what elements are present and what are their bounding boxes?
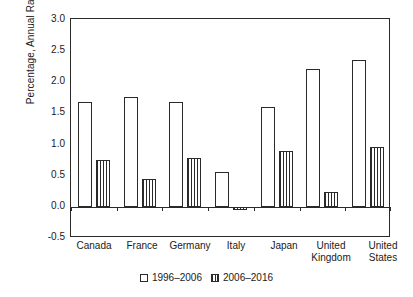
x-tick-mark-0 xyxy=(71,207,72,211)
legend-item-1996-2006: 1996–2006 xyxy=(140,272,202,283)
legend-item-2006-2016: 2006–2016 xyxy=(211,272,273,283)
hatched-square-icon xyxy=(211,274,219,282)
bar-germany-1996-2006 xyxy=(169,102,183,207)
y-tick-label-3.0: 3.0 xyxy=(25,14,65,24)
x-tick-mark-6 xyxy=(345,207,346,211)
bar-italy-1996-2006 xyxy=(215,172,229,207)
y-tick-label-2.0: 2.0 xyxy=(25,76,65,86)
bar-canada-1996-2006 xyxy=(78,102,92,207)
zero-baseline xyxy=(71,207,391,208)
x-category-label-united-states: United States xyxy=(358,240,408,263)
bar-france-1996-2006 xyxy=(124,97,138,207)
bar-united-states-2006-2016 xyxy=(370,147,384,207)
x-category-label-canada: Canada xyxy=(70,240,118,252)
y-tick-label-1.0: 1.0 xyxy=(25,139,65,149)
x-tick-mark-3 xyxy=(208,207,209,211)
bar-germany-2006-2016 xyxy=(187,158,201,207)
bar-japan-1996-2006 xyxy=(261,107,275,207)
bar-united-kingdom-2006-2016 xyxy=(324,192,338,206)
bar-canada-2006-2016 xyxy=(96,160,110,207)
plot-area xyxy=(70,18,390,237)
y-tick-label-0.5: 0.5 xyxy=(25,170,65,180)
bar-united-states-1996-2006 xyxy=(352,60,366,207)
bar-france-2006-2016 xyxy=(142,179,156,207)
y-tick-label--0.5: -0.5 xyxy=(25,232,65,242)
x-tick-mark-5 xyxy=(300,207,301,211)
x-category-label-united-kingdom: United Kingdom xyxy=(306,240,356,263)
bar-united-kingdom-1996-2006 xyxy=(306,69,320,207)
x-category-label-japan: Japan xyxy=(260,240,308,252)
x-category-label-germany: Germany xyxy=(164,240,216,252)
chart-legend: 1996–2006 2006–2016 xyxy=(0,272,413,283)
x-category-label-france: France xyxy=(118,240,166,252)
bar-chart: Percentage, Annual Rate 3.0 2.5 2.0 1.5 … xyxy=(0,0,413,297)
open-square-icon xyxy=(140,274,148,282)
y-tick-label-0.0: 0.0 xyxy=(25,201,65,211)
y-tick-label-1.5: 1.5 xyxy=(25,107,65,117)
legend-label-2006-2016: 2006–2016 xyxy=(223,272,273,283)
x-tick-mark-1 xyxy=(117,207,118,211)
x-tick-mark-7 xyxy=(390,207,391,211)
x-tick-mark-4 xyxy=(254,207,255,211)
x-tick-mark-2 xyxy=(162,207,163,211)
bar-japan-2006-2016 xyxy=(279,151,293,207)
y-tick-label-2.5: 2.5 xyxy=(25,45,65,55)
bar-italy-2006-2016 xyxy=(233,207,247,210)
x-category-label-italy: Italy xyxy=(214,240,258,252)
legend-label-1996-2006: 1996–2006 xyxy=(152,272,202,283)
